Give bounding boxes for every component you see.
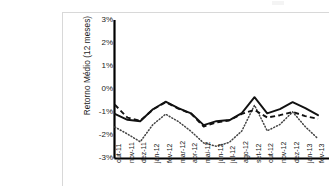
series-line-solida [115,97,318,125]
x-axis-tick-label: fev-12 [166,144,173,163]
x-axis-tick-label: mar-12 [179,141,186,163]
x-axis-tick-label: mai-12 [204,142,211,163]
x-axis-tick-label: abr-12 [191,143,198,163]
x-axis-tick-label: set-12 [255,144,262,163]
series-line-pontilhada [115,105,318,146]
x-axis-tick-label: nov-11 [128,142,135,163]
chart-figure: Retorno Médio (12 meses) 3% 2% 1% 0% -1%… [0,0,329,186]
x-axis-tick-label: jul-12 [229,146,236,163]
x-axis-tick-label: out-12 [267,143,274,163]
x-axis-tick-label: jan-13 [306,144,313,163]
x-axis-tick-label: jun-12 [217,144,224,163]
x-axis-tick-label: dez-12 [293,142,300,163]
x-axis-tick-label: jan-12 [153,144,160,163]
chart-plot-frame: Retorno Médio (12 meses) 3% 2% 1% 0% -1%… [62,12,329,186]
scan-artifact [272,1,284,5]
x-axis-tick-label: nov-12 [280,142,287,163]
x-axis-tick-label: dez-11 [140,142,147,163]
x-axis-tick-label: ago-12 [242,141,249,163]
x-axis-tick-label: fev-13 [318,144,325,163]
x-axis-tick-label: out-11 [115,144,122,163]
